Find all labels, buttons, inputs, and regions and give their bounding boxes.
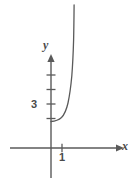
x-tick-label-1: 1 (59, 152, 65, 163)
plot-canvas (0, 0, 133, 181)
x-axis-label: x (122, 140, 128, 152)
y-axis-arrowhead (47, 54, 54, 62)
exponential-graph-figure: y x 3 1 (0, 0, 133, 181)
y-tick-label-3: 3 (31, 99, 37, 110)
y-axis-label: y (43, 39, 48, 51)
